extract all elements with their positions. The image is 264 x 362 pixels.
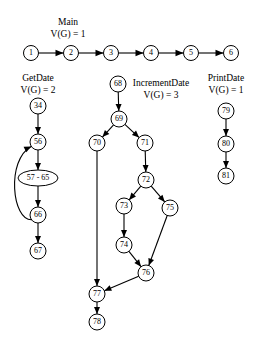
control-flow-graph: 123456345657 - 6566676869707172737574767… (0, 0, 264, 362)
node-75[interactable]: 75 (162, 200, 178, 216)
node-80[interactable]: 80 (218, 136, 234, 152)
group-complexity: V(G) = 1 (209, 85, 244, 96)
node-3[interactable]: 3 (104, 46, 119, 61)
node-74[interactable]: 74 (116, 237, 132, 253)
node-70[interactable]: 70 (89, 135, 105, 151)
edge-3-to-4 (119, 50, 144, 56)
flowgraph-figure: 123456345657 - 6566676869707172737574767… (0, 0, 264, 362)
node-label: 74 (120, 240, 128, 249)
edge-71-to-72 (143, 151, 149, 172)
node-label: 56 (34, 137, 42, 146)
node-label: 5 (189, 48, 193, 57)
node-2[interactable]: 2 (64, 46, 79, 61)
edge-68-to-69 (116, 92, 122, 111)
node-57-65[interactable]: 57 - 65 (18, 170, 58, 186)
group-label-incrementdate: IncrementDateV(G) = 3 (133, 78, 189, 101)
edge-70-to-77 (94, 151, 100, 286)
edge-5-to-6 (199, 50, 224, 56)
node-79[interactable]: 79 (218, 103, 234, 119)
node-label: 78 (93, 317, 101, 326)
node-34[interactable]: 34 (30, 98, 46, 114)
group-complexity: V(G) = 3 (144, 90, 179, 101)
group-label-main: MainV(G) = 1 (51, 17, 86, 40)
node-label: 66 (34, 210, 42, 219)
edge-76-to-77 (104, 276, 138, 291)
node-label: 77 (93, 289, 101, 298)
node-label: 75 (166, 203, 174, 212)
group-title: PrintDate (208, 73, 244, 83)
group-labels-layer: MainV(G) = 1GetDateV(G) = 2IncrementDate… (21, 17, 245, 101)
group-title: IncrementDate (133, 78, 189, 88)
node-71[interactable]: 71 (137, 135, 153, 151)
group-complexity: V(G) = 1 (51, 29, 86, 40)
edge-66-to-67 (35, 223, 41, 243)
group-label-getdate: GetDateV(G) = 2 (21, 73, 56, 96)
node-69[interactable]: 69 (111, 111, 127, 127)
group-title: Main (58, 17, 78, 27)
edge-56-to-57-65 (35, 150, 41, 170)
node-label: 70 (93, 138, 101, 147)
node-label: 2 (69, 48, 73, 57)
edge-69-to-71 (125, 124, 139, 137)
node-label: 69 (115, 114, 123, 123)
node-label: 34 (34, 101, 42, 110)
node-label: 80 (222, 139, 230, 148)
group-title: GetDate (22, 73, 54, 83)
node-72[interactable]: 72 (138, 172, 154, 188)
node-label: 6 (229, 48, 233, 57)
node-1[interactable]: 1 (24, 46, 39, 61)
node-label: 76 (142, 268, 150, 277)
edge-80-to-81 (223, 152, 229, 168)
edge-79-to-80 (223, 119, 229, 136)
node-76[interactable]: 76 (138, 265, 154, 281)
edge-77-to-78 (94, 302, 100, 314)
node-label: 68 (114, 79, 122, 88)
node-77[interactable]: 77 (89, 286, 105, 302)
node-81[interactable]: 81 (218, 168, 234, 184)
node-label: 67 (34, 246, 42, 255)
node-label: 71 (141, 138, 149, 147)
node-67[interactable]: 67 (30, 243, 46, 259)
edge-34-to-56 (35, 114, 41, 134)
node-4[interactable]: 4 (144, 46, 159, 61)
node-label: 81 (222, 171, 230, 180)
edge-72-to-75 (151, 186, 165, 202)
node-label: 73 (120, 201, 128, 210)
edge-2-to-3 (79, 50, 104, 56)
node-5[interactable]: 5 (184, 46, 199, 61)
node-label: 3 (109, 48, 113, 57)
node-68[interactable]: 68 (110, 76, 126, 92)
node-label: 1 (29, 48, 33, 57)
node-label: 57 - 65 (27, 173, 50, 182)
node-6[interactable]: 6 (224, 46, 239, 61)
edge-74-to-76 (129, 251, 141, 266)
edge-75-to-76 (148, 216, 167, 266)
node-label: 72 (142, 175, 150, 184)
group-complexity: V(G) = 2 (21, 85, 56, 96)
node-66[interactable]: 66 (30, 207, 46, 223)
group-label-printdate: PrintDateV(G) = 1 (208, 73, 244, 96)
node-78[interactable]: 78 (89, 314, 105, 330)
edge-69-to-70 (102, 125, 113, 137)
node-73[interactable]: 73 (116, 198, 132, 214)
edge-4-to-5 (159, 50, 184, 56)
node-56[interactable]: 56 (30, 134, 46, 150)
node-label: 79 (222, 106, 230, 115)
edge-72-to-73 (129, 186, 141, 200)
node-label: 4 (149, 48, 153, 57)
edge-1-to-2 (39, 50, 64, 56)
edge-57-65-to-66 (35, 186, 41, 207)
edge-73-to-74 (121, 214, 127, 237)
